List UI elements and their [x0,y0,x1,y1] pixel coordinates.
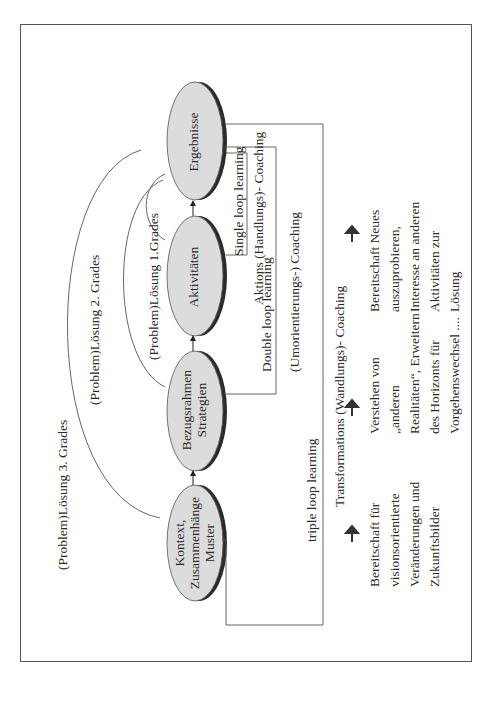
aktions-coaching-label: Aktions (Handlungs)- Coaching [251,132,267,305]
solution-third-label: (Problem)Lösung 3. Grades [55,420,71,570]
outcome-triple-text: Bereitschaft für visionsorientierte Verä… [365,482,445,587]
solution-second-label: (Problem)Lösung 2. Grades [87,255,103,405]
outcome-double-text: Verstehen von „anderen Realitäten“, Erwe… [365,313,465,434]
node-bezugsrahmen: Bezugsrahmen Strategien [179,365,209,455]
triple-loop-label: triple loop learning [304,439,320,542]
node-kontext: Kontext, Zusammenhänge Muster [172,493,217,593]
node-aktivitaeten: Aktivitäten [186,237,201,317]
outcome-single-text: Bereitschaft Neues auszuprobieren, Inter… [365,202,465,312]
solution-first-label: (Problem)Lösung 1.Grades [146,213,162,360]
umorientierungs-coaching-label: (Umorientierungs-) Coaching [287,212,303,372]
transformations-coaching-label: Transformations (Wandlungs)- Coaching [332,286,348,507]
single-loop-label: Single loop learning [231,147,247,256]
node-ergebnisse: Ergebnisse [186,102,201,182]
